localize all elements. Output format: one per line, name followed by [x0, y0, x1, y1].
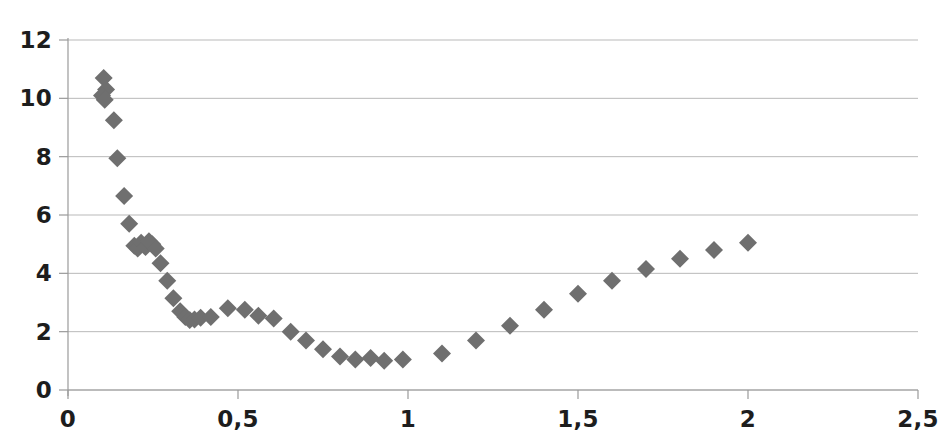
- gridlines: [68, 40, 918, 390]
- data-point-marker: [705, 241, 723, 259]
- data-point-marker: [671, 250, 689, 268]
- data-point-marker: [120, 215, 138, 233]
- x-axis-tick-label: 1,5: [557, 406, 599, 432]
- plot-area: [0, 0, 948, 438]
- tick-marks: [59, 40, 918, 399]
- data-point-marker: [105, 111, 123, 129]
- data-point-marker: [394, 350, 412, 368]
- axis-lines: [68, 38, 918, 396]
- y-axis-tick-label: 8: [0, 144, 52, 170]
- y-axis-tick-label: 10: [0, 85, 52, 111]
- data-point-marker: [739, 234, 757, 252]
- data-point-marker: [158, 272, 176, 290]
- data-point-marker: [297, 331, 315, 349]
- data-point-marker: [151, 254, 169, 272]
- data-point-marker: [265, 310, 283, 328]
- data-point-marker: [314, 340, 332, 358]
- data-point-marker: [569, 285, 587, 303]
- x-axis-tick-label: 2,5: [897, 406, 939, 432]
- data-point-marker: [331, 347, 349, 365]
- y-axis-tick-label: 6: [0, 202, 52, 228]
- data-point-marker: [603, 272, 621, 290]
- data-point-marker: [362, 349, 380, 367]
- data-point-marker: [535, 301, 553, 319]
- data-point-marker: [202, 308, 220, 326]
- data-point-marker: [433, 345, 451, 363]
- data-point-marker: [637, 260, 655, 278]
- data-point-marker: [115, 187, 133, 205]
- data-point-marker: [467, 331, 485, 349]
- scatter-chart: 024681012 00,511,522,5: [0, 0, 948, 438]
- x-axis-tick-label: 0,5: [217, 406, 259, 432]
- data-point-marker: [375, 352, 393, 370]
- data-markers: [93, 69, 757, 370]
- y-axis-tick-label: 12: [0, 27, 52, 53]
- y-axis-tick-label: 4: [0, 260, 52, 286]
- data-point-marker: [282, 323, 300, 341]
- y-axis-tick-label: 0: [0, 377, 52, 403]
- x-axis-tick-label: 2: [740, 406, 756, 432]
- data-point-marker: [219, 299, 237, 317]
- data-point-marker: [108, 149, 126, 167]
- x-axis-tick-label: 1: [400, 406, 416, 432]
- data-point-marker: [346, 350, 364, 368]
- y-axis-tick-label: 2: [0, 319, 52, 345]
- x-axis-tick-label: 0: [60, 406, 76, 432]
